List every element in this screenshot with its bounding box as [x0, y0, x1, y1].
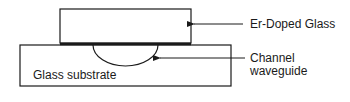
- label-glass-substrate: Glass substrate: [33, 68, 117, 82]
- er-doped-glass-block: [60, 9, 191, 43]
- channel-waveguide: [93, 45, 158, 66]
- label-er-doped-glass: Er-Doped Glass: [250, 17, 335, 31]
- waveguide-diagram: Er-Doped Glass Channel waveguide Glass s…: [0, 0, 350, 102]
- label-channel: Channel: [250, 51, 295, 65]
- label-waveguide: waveguide: [249, 64, 308, 78]
